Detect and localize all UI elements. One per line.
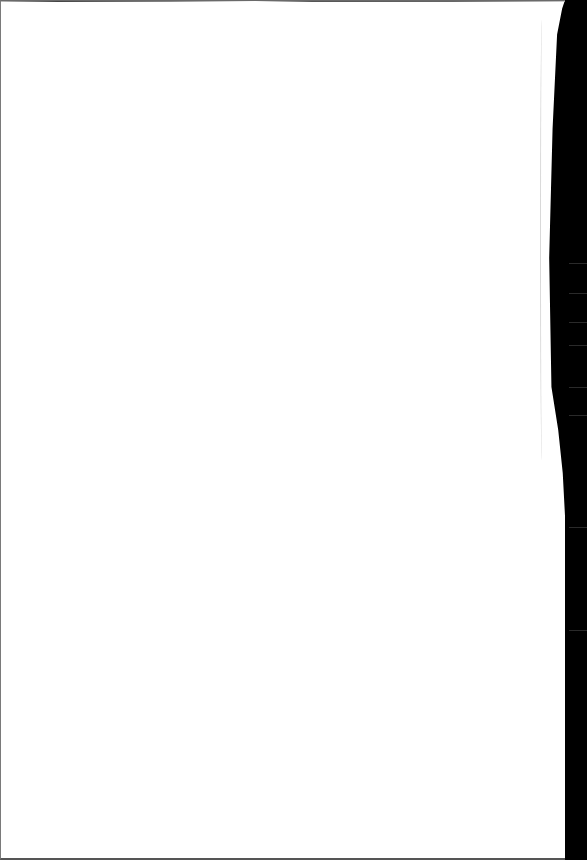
scanner-line <box>569 322 587 323</box>
scanner-line <box>569 630 587 631</box>
scanner-line <box>569 263 587 264</box>
scanner-line <box>569 345 587 346</box>
scan-background <box>0 0 587 860</box>
page-curl-shadow <box>540 20 544 460</box>
scanner-line <box>569 293 587 294</box>
page-top-edge <box>1 1 566 2</box>
scanner-line <box>569 527 587 528</box>
blank-page <box>0 0 565 860</box>
scanner-artifacts <box>565 0 587 860</box>
scanner-line <box>569 415 587 416</box>
page-content <box>41 41 505 818</box>
scanner-line <box>569 387 587 388</box>
